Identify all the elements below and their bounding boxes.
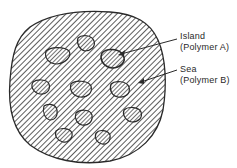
sea-label: Sea (Polymer B) xyxy=(180,64,230,86)
sea-label-polymer: (Polymer B) xyxy=(180,75,230,86)
island-6 xyxy=(110,82,129,98)
sea-label-title: Sea xyxy=(180,64,230,75)
island-8 xyxy=(75,110,92,125)
island-7 xyxy=(43,104,57,120)
island-label: Island (Polymer A) xyxy=(180,31,229,53)
island-5 xyxy=(70,81,91,97)
island-9 xyxy=(123,108,141,122)
island-11 xyxy=(95,131,110,145)
island-10 xyxy=(55,129,72,143)
island-3 xyxy=(101,49,124,68)
island-2 xyxy=(77,36,94,51)
island-4 xyxy=(32,80,49,94)
island-label-polymer: (Polymer A) xyxy=(180,42,229,53)
island-label-title: Island xyxy=(180,31,229,42)
